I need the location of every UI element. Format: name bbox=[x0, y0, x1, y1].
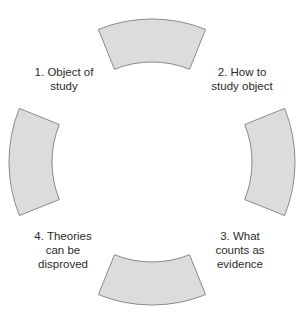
ring-segments bbox=[0, 0, 300, 322]
segment-right bbox=[245, 108, 295, 215]
step-2-label: 2. How to study object bbox=[211, 65, 272, 93]
step-4-label: 4. Theories can be disproved bbox=[34, 229, 91, 271]
cycle-diagram: 1. Object of study 2. How to study objec… bbox=[0, 0, 300, 322]
step-3-label: 3. What counts as evidence bbox=[215, 229, 264, 271]
segment-left bbox=[9, 108, 59, 215]
segment-top bbox=[98, 19, 205, 69]
step-1-label: 1. Object of study bbox=[35, 65, 94, 93]
segment-bottom bbox=[98, 255, 205, 305]
